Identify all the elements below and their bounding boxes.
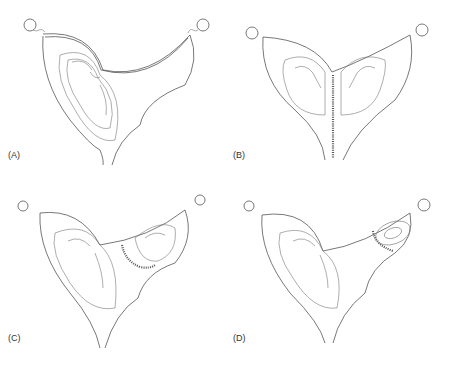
fallopian-tube-right-icon: [188, 29, 198, 33]
embryo-icon: [383, 225, 403, 241]
uterus-diagram-d: [225, 183, 450, 366]
panel-b: (B): [225, 0, 450, 183]
uterus-diagram-c: [0, 183, 225, 366]
amniotic-sac-inner: [67, 59, 112, 128]
panel-label-a: (A): [8, 150, 20, 160]
amniotic-sac-left: [283, 57, 325, 115]
uterus-diagram-b: [225, 0, 450, 183]
gestational-sac-right: [372, 217, 413, 250]
ovary-right-icon: [197, 19, 209, 31]
panel-label-c: (C): [8, 333, 21, 343]
ovary-right-icon: [418, 199, 430, 211]
ovary-right-icon: [416, 24, 428, 36]
uterus-outline-left: [263, 37, 325, 160]
uterus-diagram-a: [0, 0, 225, 183]
uterus-outline-left: [40, 213, 100, 348]
fallopian-tube-left-icon: [33, 29, 45, 32]
ovary-left-icon: [244, 201, 254, 211]
panel-label-d: (D): [233, 333, 246, 343]
panel-c: (C): [0, 183, 225, 366]
amniotic-sac-right: [135, 225, 175, 261]
uterus-outline-right: [263, 35, 412, 160]
amniotic-sac-left: [54, 229, 116, 309]
ovary-left-icon: [24, 19, 36, 31]
partial-septum: [122, 245, 155, 268]
fetus-right-icon: [349, 66, 375, 88]
ovary-left-icon: [18, 201, 28, 211]
fetus-left-icon: [295, 66, 321, 88]
panel-a: (A): [0, 0, 225, 183]
uterus-outline-inner: [45, 37, 188, 73]
fetus-left-icon: [293, 239, 328, 288]
amniotic-sac-left: [279, 230, 339, 308]
fetus-left-icon: [68, 239, 103, 288]
panel-d: (D): [225, 183, 450, 366]
ovary-left-icon: [246, 27, 258, 39]
fetus-icon: [72, 61, 106, 115]
amniotic-sac-right: [341, 57, 385, 115]
fetus-right-icon: [145, 233, 165, 238]
uterus-outline-right: [262, 213, 411, 343]
panel-label-b: (B): [233, 150, 245, 160]
ovary-right-icon: [195, 195, 205, 205]
